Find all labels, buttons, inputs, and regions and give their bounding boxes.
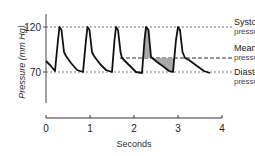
systolic-label-sub: pressure bbox=[234, 27, 255, 36]
x-tick-label-2: 2 bbox=[131, 123, 137, 134]
y-axis-title: Pressure (mm Hg) bbox=[17, 25, 27, 99]
x-tick-label-1: 1 bbox=[87, 123, 93, 134]
pressure-chart: 120 70 0 1 2 3 4 Seconds Pressure (mm Hg… bbox=[0, 0, 255, 156]
pressure-waveform bbox=[46, 27, 210, 73]
x-tick-label-0: 0 bbox=[43, 123, 49, 134]
diastolic-label: Diastolic bbox=[234, 67, 255, 77]
systolic-label: Systolic bbox=[234, 17, 255, 27]
diastolic-label-sub: pressure bbox=[234, 77, 255, 86]
mean-label-sub: pressure bbox=[234, 53, 255, 62]
x-tick-label-3: 3 bbox=[175, 123, 181, 134]
mean-label: Mean bbox=[234, 43, 255, 53]
y-tick-label-70: 70 bbox=[30, 67, 42, 78]
x-tick-label-4: 4 bbox=[219, 123, 225, 134]
x-axis-title: Seconds bbox=[116, 139, 152, 149]
